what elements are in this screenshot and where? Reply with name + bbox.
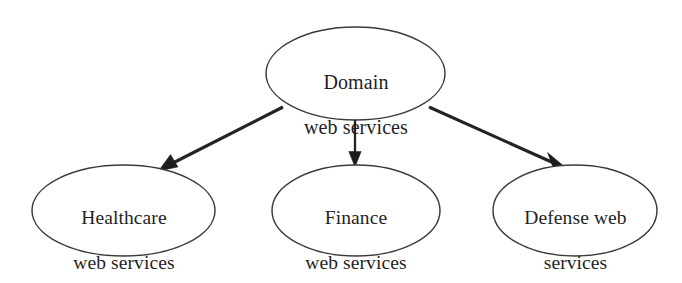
node-ellipse-defense-web-services[interactable] — [493, 165, 657, 256]
node-ellipse-finance-web-services[interactable] — [272, 165, 440, 256]
edge-root-healthcare — [159, 107, 284, 171]
edge-root-defense-line — [429, 107, 556, 164]
diagram-graphics-layer — [0, 0, 682, 283]
edge-root-finance — [349, 120, 361, 167]
diagram-canvas: Domain web services Healthcare web servi… — [0, 0, 682, 283]
node-ellipse-domain-web-services[interactable] — [266, 27, 445, 120]
node-ellipse-healthcare-web-services[interactable] — [32, 165, 215, 256]
edge-root-defense — [429, 107, 568, 170]
edge-root-healthcare-line — [169, 107, 283, 165]
